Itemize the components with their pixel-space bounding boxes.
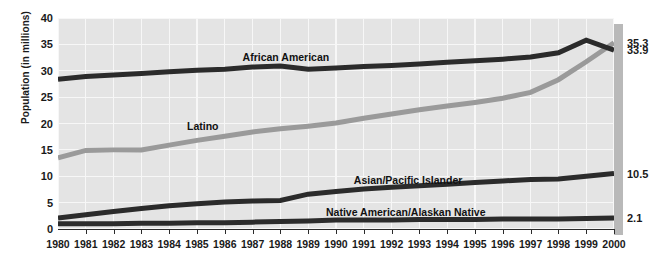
y-tick-label: 5	[20, 198, 53, 208]
x-tick-label: 1989	[297, 238, 320, 250]
x-tick-label: 1984	[158, 238, 181, 250]
x-tick-mark	[253, 229, 254, 234]
y-tick-label: 10	[20, 171, 53, 181]
x-tick-mark	[447, 229, 448, 234]
x-tick-label: 1995	[463, 238, 486, 250]
x-tick-mark	[475, 229, 476, 234]
x-axis	[58, 229, 614, 237]
end-value-label: 2.1	[627, 212, 642, 224]
series-label-latino: Latino	[187, 120, 219, 132]
x-tick-label: 1981	[74, 238, 97, 250]
plot-panel-shadow	[614, 24, 623, 235]
x-tick-label: 1987	[241, 238, 264, 250]
x-tick-label: 1983	[130, 238, 153, 250]
x-tick-mark	[558, 229, 559, 234]
x-tick-mark	[308, 229, 309, 234]
x-tick-label: 1998	[547, 238, 570, 250]
x-tick-label: 2000	[602, 238, 625, 250]
x-tick-label: 1993	[408, 238, 431, 250]
x-tick-label: 1982	[102, 238, 125, 250]
x-tick-mark	[280, 229, 281, 234]
x-tick-mark	[114, 229, 115, 234]
end-value-label: 33.9	[627, 44, 648, 56]
x-tick-label: 1986	[213, 238, 236, 250]
x-tick-mark	[364, 229, 365, 234]
x-tick-mark	[419, 229, 420, 234]
series-lines-svg	[58, 18, 614, 229]
x-tick-label: 1980	[46, 238, 69, 250]
x-tick-mark	[614, 229, 615, 234]
series-label-native-american-alaskan-native: Native American/Alaskan Native	[326, 206, 486, 218]
x-tick-label: 1990	[324, 238, 347, 250]
x-tick-label: 1988	[269, 238, 292, 250]
x-tick-label: 1994	[436, 238, 459, 250]
x-tick-mark	[586, 229, 587, 234]
x-tick-label: 1992	[380, 238, 403, 250]
x-tick-mark	[169, 229, 170, 234]
plot-area	[58, 18, 614, 229]
x-tick-mark	[197, 229, 198, 234]
y-tick-label: 15	[20, 145, 53, 155]
y-tick-label: 40	[20, 13, 53, 23]
end-value-label: 10.5	[627, 168, 648, 180]
y-axis-tick-labels: 0510152025303540	[20, 0, 53, 263]
y-tick-label: 25	[20, 92, 53, 102]
x-tick-mark	[141, 229, 142, 234]
y-tick-label: 20	[20, 119, 53, 129]
population-line-chart: Population (in millions) 051015202530354…	[0, 0, 664, 263]
x-tick-mark	[531, 229, 532, 234]
x-tick-label: 1996	[491, 238, 514, 250]
x-tick-label: 1997	[519, 238, 542, 250]
x-tick-mark	[225, 229, 226, 234]
x-tick-mark	[336, 229, 337, 234]
y-tick-label: 30	[20, 66, 53, 76]
y-tick-label: 0	[20, 224, 53, 234]
series-label-asian-pacific-islander: Asian/Pacific Islander	[354, 174, 463, 186]
y-tick-label: 35	[20, 39, 53, 49]
x-tick-label: 1985	[185, 238, 208, 250]
x-tick-mark	[86, 229, 87, 234]
series-label-african-american: African American	[243, 51, 330, 63]
x-tick-label: 1999	[575, 238, 598, 250]
x-tick-mark	[503, 229, 504, 234]
x-tick-label: 1991	[352, 238, 375, 250]
x-tick-mark	[392, 229, 393, 234]
